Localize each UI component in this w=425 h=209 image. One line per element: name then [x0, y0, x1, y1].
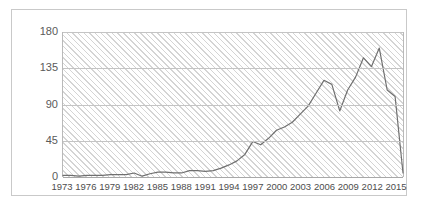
chart-frame: 04590135180 1973197619791982198519881991… — [11, 9, 407, 196]
x-axis-tick-label: 1991 — [195, 181, 216, 193]
x-axis-tick-label: 1982 — [123, 181, 144, 193]
y-axis-tick-label: 135 — [14, 62, 58, 73]
y-axis-tick-label: 90 — [14, 99, 58, 110]
plot-area — [62, 32, 404, 177]
gridline — [63, 141, 403, 142]
gridline — [63, 105, 403, 106]
x-axis: 1973197619791982198519881991199419972000… — [62, 181, 404, 197]
x-axis-tick-label: 2015 — [385, 181, 406, 193]
x-axis-tick-label: 2006 — [314, 181, 335, 193]
x-axis-tick-label: 2012 — [362, 181, 383, 193]
y-axis-tick-label: 45 — [14, 135, 58, 146]
gridline — [63, 68, 403, 69]
x-axis-tick-label: 2000 — [266, 181, 287, 193]
y-axis: 04590135180 — [12, 32, 58, 177]
x-axis-tick-label: 1994 — [218, 181, 239, 193]
x-axis-tick-label: 1973 — [51, 181, 72, 193]
x-axis-tick-label: 2009 — [338, 181, 359, 193]
x-axis-tick-label: 2003 — [290, 181, 311, 193]
x-axis-tick-label: 1988 — [171, 181, 192, 193]
chart-figure: 04590135180 1973197619791982198519881991… — [0, 0, 425, 209]
x-axis-tick-label: 1985 — [147, 181, 168, 193]
x-axis-tick-label: 1979 — [99, 181, 120, 193]
x-axis-tick-label: 1997 — [242, 181, 263, 193]
x-axis-baseline — [63, 177, 403, 178]
gridline — [63, 32, 403, 33]
x-axis-tick-label: 1976 — [75, 181, 96, 193]
y-axis-tick-label: 180 — [14, 26, 58, 37]
